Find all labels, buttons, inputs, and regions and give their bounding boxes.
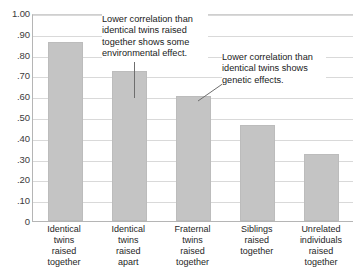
y-axis: 1.00.90.80.70.60.50.40.30.20.100 <box>0 14 30 222</box>
y-axis-tick-label: 1.00 <box>0 9 30 19</box>
x-axis: IdenticaltwinsraisedtogetherIdenticaltwi… <box>32 224 353 271</box>
y-axis-tick-label: .70 <box>0 71 30 81</box>
y-axis-tick-label: .90 <box>0 30 30 40</box>
x-axis-category-label: Identicaltwinsraisedtogether <box>32 224 96 268</box>
x-axis-category-line: Unrelated <box>289 224 353 235</box>
x-axis-category-label: Siblingsraisedtogether <box>225 224 289 257</box>
x-axis-category-line: twins <box>160 235 224 246</box>
y-axis-tick-label: .20 <box>0 175 30 185</box>
x-axis-category-line: twins <box>96 235 160 246</box>
bar <box>304 154 339 221</box>
annotation-environmental-effect: Lower correlation than identical twins r… <box>102 14 208 59</box>
bar <box>176 96 211 221</box>
bar <box>112 71 147 221</box>
y-axis-tick-label: .30 <box>0 155 30 165</box>
x-axis-category-line: Identical <box>32 224 96 235</box>
x-axis-category-label: Identicaltwinsraisedapart <box>96 224 160 268</box>
x-axis-category-line: together <box>160 257 224 268</box>
x-axis-category-label: Fraternaltwinsraisedtogether <box>160 224 224 268</box>
bar <box>48 42 83 221</box>
x-axis-category-line: Siblings <box>225 224 289 235</box>
correlation-bar-chart: 1.00.90.80.70.60.50.40.30.20.100 Identic… <box>0 0 353 271</box>
x-axis-category-line: raised <box>225 235 289 246</box>
x-axis-category-line: twins <box>32 235 96 246</box>
annotation-1-leader-line <box>134 62 135 98</box>
annotation-genetic-effects: Lower correlation than identical twins s… <box>222 52 326 86</box>
y-axis-tick-label: 0 <box>0 217 30 227</box>
x-axis-category-label: Unrelatedindividualsraisedtogether <box>289 224 353 268</box>
y-axis-tick-label: .40 <box>0 134 30 144</box>
x-axis-category-line: raised <box>289 246 353 257</box>
y-axis-tick-label: .50 <box>0 113 30 123</box>
x-axis-category-line: together <box>289 257 353 268</box>
x-axis-category-line: raised <box>160 246 224 257</box>
x-axis-category-line: Identical <box>96 224 160 235</box>
y-axis-tick-label: .60 <box>0 92 30 102</box>
x-axis-category-line: raised <box>32 246 96 257</box>
x-axis-category-line: together <box>32 257 96 268</box>
x-axis-category-line: individuals <box>289 235 353 246</box>
x-axis-category-line: Fraternal <box>160 224 224 235</box>
y-axis-tick-label: .80 <box>0 51 30 61</box>
bar <box>240 125 275 221</box>
x-axis-category-line: apart <box>96 257 160 268</box>
x-axis-category-line: raised <box>96 246 160 257</box>
x-axis-category-line: together <box>225 246 289 257</box>
y-axis-tick-label: .10 <box>0 196 30 206</box>
